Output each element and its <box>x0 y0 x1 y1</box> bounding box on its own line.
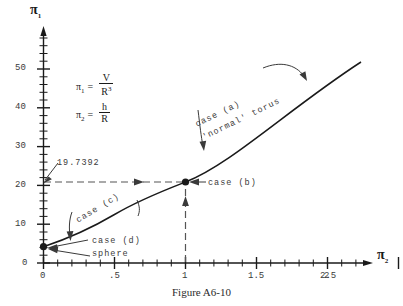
x-axis <box>44 260 374 266</box>
annotation-value-19-7392: 19.7392 <box>57 158 100 168</box>
y-tick-label-0: 0 <box>22 258 27 268</box>
formula-pi1: π1=VR3 <box>76 74 113 98</box>
y-tick-label-40: 40 <box>15 102 26 112</box>
point-case-d <box>40 243 47 250</box>
y-tick-label-30: 30 <box>15 141 26 151</box>
leader-value-label <box>43 163 58 184</box>
y-tick-label-50: 50 <box>15 63 26 73</box>
reference-line-vertical <box>182 183 189 262</box>
x-tick-label-05: .5 <box>109 271 120 281</box>
formula-pi2: π2=hR <box>76 103 110 125</box>
x-tick-label-0: 0 <box>40 271 45 281</box>
annotation-case-b: case (b) <box>208 178 257 188</box>
y-tick-label-20: 20 <box>15 180 26 190</box>
annotation-case-d: case (d) <box>92 236 141 246</box>
x-axis-label: π2 <box>377 247 388 265</box>
x-tick-label-25: 2.5 <box>320 271 336 281</box>
reference-line-horizontal <box>44 179 183 186</box>
x-tick-label-1: 1 <box>182 271 187 281</box>
annotation-sphere: sphere <box>92 249 129 259</box>
leader-sphere <box>48 247 90 257</box>
figure-plot <box>0 0 403 306</box>
y-tick-label-10: 10 <box>15 219 26 229</box>
leader-case-c-down <box>67 212 74 241</box>
leader-case-a <box>263 64 307 81</box>
x-tick-label-15: 1.5 <box>248 271 264 281</box>
y-axis-label: π1 <box>30 2 41 20</box>
figure-caption: Figure A6-10 <box>0 286 403 298</box>
point-case-b <box>182 178 189 185</box>
